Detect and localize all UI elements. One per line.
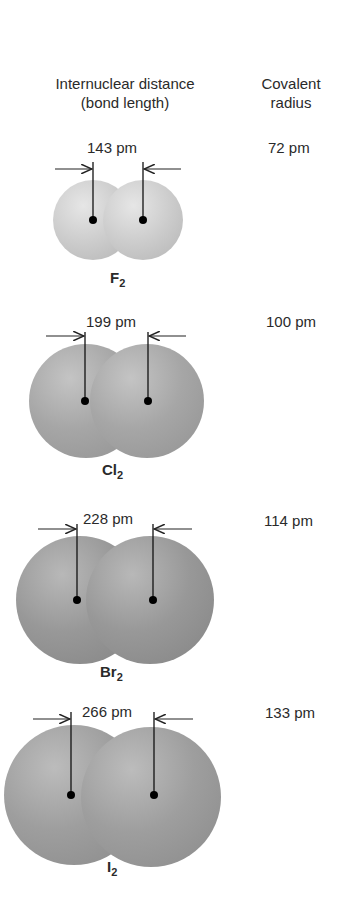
br-nucleus-right	[149, 596, 157, 604]
cl2-covalent-radius: 100 pm	[266, 313, 316, 330]
i-nucleus-right	[150, 791, 158, 799]
cl2-bond-length: 199 pm	[86, 313, 136, 330]
molecule-i2	[4, 712, 221, 867]
f2-covalent-radius: 72 pm	[268, 139, 310, 156]
cl-nucleus-left	[81, 397, 89, 405]
molecule-br2	[16, 524, 214, 664]
f-nucleus-left	[89, 216, 97, 224]
molecule-f2	[53, 162, 183, 260]
molecule-cl2	[29, 332, 204, 458]
br-nucleus-left	[73, 596, 81, 604]
i2-covalent-radius: 133 pm	[265, 704, 315, 721]
i2-bond-length: 266 pm	[82, 703, 132, 720]
i-nucleus-left	[67, 791, 75, 799]
br2-bond-length: 228 pm	[83, 510, 133, 527]
i2-formula: I2	[107, 858, 117, 878]
f2-bond-length: 143 pm	[87, 139, 137, 156]
cl2-formula: Cl2	[102, 461, 123, 481]
br2-covalent-radius: 114 pm	[264, 512, 313, 529]
f-nucleus-right	[139, 216, 147, 224]
molecule-diagram	[0, 0, 355, 900]
f2-formula: F2	[110, 269, 125, 289]
br2-formula: Br2	[100, 663, 123, 683]
cl-nucleus-right	[144, 397, 152, 405]
